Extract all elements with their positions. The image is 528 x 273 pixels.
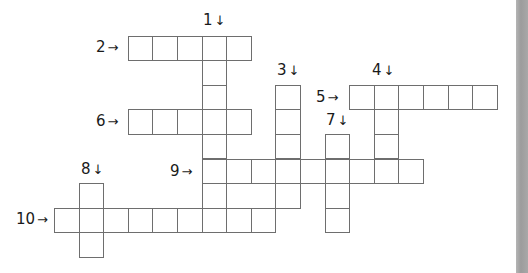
crossword-cell[interactable] [202, 85, 228, 111]
arrow-down-icon: ↓ [384, 63, 395, 78]
crossword-cell[interactable] [202, 60, 228, 86]
arrow-right-icon: → [328, 90, 339, 105]
crossword-cell[interactable] [398, 85, 424, 111]
crossword-cell[interactable] [226, 109, 252, 135]
page-edge-strip [516, 0, 528, 273]
clue-number: 2 [96, 38, 106, 56]
crossword-cell[interactable] [226, 208, 252, 234]
clue-number: 5 [316, 88, 326, 106]
clue-number-label: 5→ [316, 90, 338, 105]
clue-number: 6 [96, 112, 106, 130]
arrow-down-icon: ↓ [93, 162, 104, 177]
crossword-grid: 1↓2→3↓4↓5→6→7↓8↓9→10→ [0, 0, 516, 273]
crossword-cell[interactable] [275, 183, 301, 209]
crossword-cell[interactable] [325, 134, 351, 160]
crossword-cell[interactable] [202, 208, 228, 234]
clue-number-label: 1↓ [203, 13, 225, 28]
arrow-right-icon: → [37, 212, 48, 227]
clue-number-label: 8↓ [81, 162, 103, 177]
crossword-cell[interactable] [251, 159, 277, 185]
crossword-cell[interactable] [325, 159, 351, 185]
clue-number-label: 10→ [16, 212, 48, 227]
clue-number-label: 7↓ [326, 113, 348, 128]
crossword-cell[interactable] [79, 183, 105, 209]
crossword-cell[interactable] [128, 36, 154, 62]
crossword-cell[interactable] [374, 109, 400, 135]
clue-number-label: 2→ [96, 40, 118, 55]
crossword-cell[interactable] [152, 36, 178, 62]
crossword-cell[interactable] [325, 183, 351, 209]
crossword-cell[interactable] [202, 183, 228, 209]
crossword-cell[interactable] [423, 85, 449, 111]
crossword-cell[interactable] [374, 159, 400, 185]
arrow-right-icon: → [182, 164, 193, 179]
clue-number-label: 4↓ [372, 63, 394, 78]
crossword-cell[interactable] [177, 36, 203, 62]
clue-number: 10 [16, 210, 35, 228]
crossword-cell[interactable] [349, 85, 375, 111]
crossword-cell[interactable] [79, 208, 105, 234]
crossword-cell[interactable] [275, 109, 301, 135]
clue-number: 9 [170, 162, 180, 180]
crossword-cell[interactable] [128, 208, 154, 234]
arrow-right-icon: → [108, 114, 119, 129]
clue-number: 4 [372, 61, 382, 79]
crossword-cell[interactable] [374, 85, 400, 111]
crossword-cell[interactable] [177, 208, 203, 234]
crossword-cell[interactable] [275, 134, 301, 160]
arrow-down-icon: ↓ [289, 63, 300, 78]
arrow-right-icon: → [108, 40, 119, 55]
crossword-cell[interactable] [152, 109, 178, 135]
arrow-down-icon: ↓ [338, 113, 349, 128]
crossword-cell[interactable] [300, 159, 326, 185]
clue-number: 3 [277, 61, 287, 79]
crossword-cell[interactable] [202, 109, 228, 135]
crossword-cell[interactable] [79, 232, 105, 258]
crossword-cell[interactable] [54, 208, 80, 234]
crossword-cell[interactable] [374, 134, 400, 160]
clue-number-label: 6→ [96, 114, 118, 129]
crossword-cell[interactable] [103, 208, 129, 234]
crossword-cell[interactable] [202, 134, 228, 160]
clue-number: 8 [81, 160, 91, 178]
crossword-cell[interactable] [202, 36, 228, 62]
clue-number: 7 [326, 111, 336, 129]
crossword-cell[interactable] [275, 85, 301, 111]
crossword-cell[interactable] [152, 208, 178, 234]
crossword-cell[interactable] [251, 208, 277, 234]
crossword-cell[interactable] [472, 85, 498, 111]
crossword-cell[interactable] [177, 109, 203, 135]
crossword-cell[interactable] [226, 159, 252, 185]
crossword-cell[interactable] [202, 159, 228, 185]
crossword-cell[interactable] [448, 85, 474, 111]
crossword-cell[interactable] [325, 208, 351, 234]
crossword-cell[interactable] [349, 159, 375, 185]
crossword-cell[interactable] [128, 109, 154, 135]
clue-number-label: 9→ [170, 164, 192, 179]
crossword-cell[interactable] [398, 159, 424, 185]
crossword-cell[interactable] [275, 159, 301, 185]
arrow-down-icon: ↓ [215, 13, 226, 28]
crossword-cell[interactable] [226, 36, 252, 62]
clue-number: 1 [203, 11, 213, 29]
clue-number-label: 3↓ [277, 63, 299, 78]
